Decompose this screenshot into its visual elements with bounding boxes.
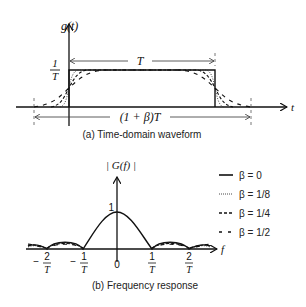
frequency-plot: | G(f) | f 1 − 2 T − 1 T 0 1 T 2 [26, 159, 226, 291]
pulse-beta-1-4 [51, 70, 233, 107]
legend-item-beta-1-2: β = 1/2 [219, 227, 270, 238]
tick-pos-2: 2 T [185, 251, 193, 275]
t-axis-label: t [291, 101, 295, 113]
svg-text:T: T [44, 264, 51, 275]
peak-label: 1 [108, 202, 114, 213]
svg-text:−: − [70, 256, 76, 267]
svg-text:T: T [81, 264, 88, 275]
legend-item-beta-1-4: β = 1/4 [219, 208, 270, 219]
svg-text:1: 1 [149, 251, 155, 262]
spectrum-beta-0 [28, 212, 210, 249]
legend-item-beta-0: β = 0 [219, 170, 262, 181]
tick-neg-1: − 1 T [70, 251, 88, 275]
amplitude-label-num: 1 [52, 57, 58, 69]
svg-text:1: 1 [81, 251, 87, 262]
svg-text:0: 0 [114, 259, 120, 270]
svg-text:−: − [33, 256, 39, 267]
tick-pos-1: 1 T [148, 251, 156, 275]
caption-a: (a) Time-domain waveform [83, 129, 202, 140]
G-axis-label: | G(f) | [106, 159, 136, 172]
svg-text:β = 1/8: β = 1/8 [239, 189, 270, 200]
caption-b: (b) Frequency response [92, 280, 199, 291]
svg-text:β = 1/2: β = 1/2 [239, 227, 270, 238]
amplitude-label-den: T [52, 70, 59, 82]
width-label: T [137, 54, 145, 68]
svg-text:2: 2 [186, 251, 192, 262]
svg-text:β = 0: β = 0 [239, 170, 262, 181]
time-domain-plot: g(t) t 1 T T (1 + β)T (a) Time-domain wa… [16, 19, 295, 140]
svg-text:β = 1/4: β = 1/4 [239, 208, 270, 219]
tick-neg-2: − 2 T [33, 251, 51, 275]
f-axis-label: f [221, 243, 226, 255]
tick-zero: 0 [114, 259, 120, 270]
svg-text:T: T [149, 264, 156, 275]
extended-width-label: (1 + β)T [120, 110, 162, 124]
svg-text:2: 2 [44, 251, 50, 262]
legend-item-beta-1-8: β = 1/8 [219, 189, 270, 200]
g-axis-label: g(t) [61, 19, 78, 33]
pulse-beta-0 [69, 70, 215, 107]
svg-text:T: T [186, 264, 193, 275]
diagram: g(t) t 1 T T (1 + β)T (a) Time-domain wa… [0, 0, 306, 307]
pulse-beta-1-8 [60, 70, 224, 107]
legend: β = 0 β = 1/8 β = 1/4 β = 1/2 [219, 170, 270, 238]
